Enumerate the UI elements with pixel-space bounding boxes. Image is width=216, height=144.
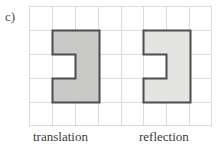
caption-reflection: reflection xyxy=(139,130,189,144)
caption-translation: translation xyxy=(33,130,88,144)
figure-container: c) xyxy=(0,0,216,144)
grid-area xyxy=(29,6,212,126)
grid-svg xyxy=(29,6,212,126)
caption-row: translation reflection xyxy=(29,128,212,144)
part-label: c) xyxy=(5,10,15,23)
